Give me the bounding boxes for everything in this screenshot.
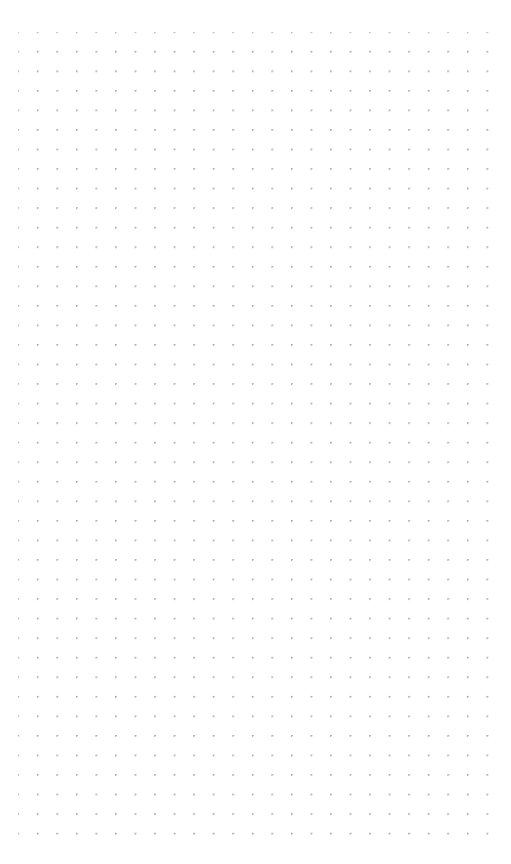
dot-grid-pattern <box>18 32 498 852</box>
document-page: Dot Grid Page <box>0 0 511 864</box>
dot-grid-area <box>18 32 498 852</box>
page-canvas[interactable]: Dot Grid Page <box>0 0 511 864</box>
